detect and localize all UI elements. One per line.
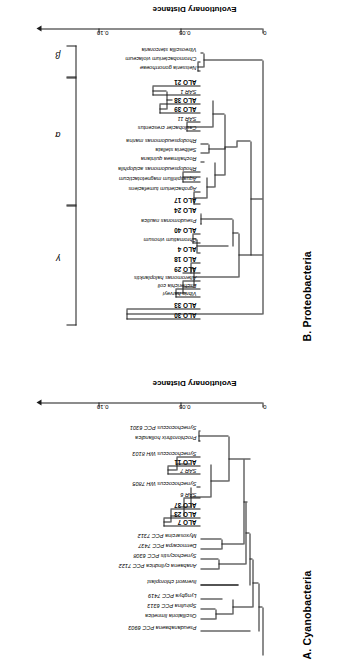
tree-branch-vertical	[178, 506, 183, 507]
tree-branch-vertical	[176, 463, 190, 464]
tip-branch	[200, 608, 215, 609]
tip-branch	[200, 568, 218, 569]
tree-branch-vertical	[200, 218, 232, 219]
tree-branch-vertical	[208, 148, 224, 149]
tip-label: Synechococcus PCC 6301	[129, 423, 196, 429]
tip-label: Rhodopseudomonas acidophila	[118, 164, 196, 170]
tree-branch-horizontal	[224, 114, 225, 175]
tree-branch-vertical	[182, 286, 193, 287]
rotated-figure: A. Cyanobacteria Pseudanabaena PCC 6903O…	[0, 0, 348, 665]
tree-branch-vertical	[200, 584, 238, 585]
tip-label: SAR 1	[180, 87, 196, 93]
tree-branch-horizontal	[206, 177, 207, 198]
group-bracket	[66, 205, 76, 325]
tree-branch-vertical	[192, 238, 196, 239]
tip-label: Synechocystis PCC 6308	[133, 551, 196, 557]
tree-branch-vertical	[214, 174, 224, 175]
tip-label: Seliberia stellata	[155, 145, 196, 151]
tip-label: Synechococcus WH 7805	[132, 479, 196, 485]
tip-label: Spirulina PCC 6313	[147, 601, 196, 607]
tip-label: ALO 38	[174, 95, 196, 101]
tree-branch-vertical	[198, 435, 228, 436]
tree-branch-vertical	[258, 606, 262, 607]
root-branch	[262, 607, 263, 655]
tree-branch-horizontal	[193, 268, 194, 287]
tip-label: Anabaena cylindrica PCC 7122	[118, 561, 196, 567]
tip-branch	[170, 508, 200, 509]
tip-branch	[175, 288, 200, 289]
tip-label: SAR 7	[180, 466, 196, 472]
tip-branch	[176, 456, 200, 457]
tip-label: liverwort chloroplast	[147, 577, 196, 583]
tree-branch-vertical	[206, 186, 214, 187]
tip-label: Chromobacterium violaceum	[125, 54, 196, 60]
tip-label: Synechococcus WH 8103	[132, 449, 196, 455]
tip-branch	[200, 548, 221, 549]
root-branch	[262, 60, 263, 314]
axis-tick-label: 0.10	[96, 403, 108, 409]
tree-branch-vertical	[197, 66, 203, 67]
tip-label: ALO 4	[177, 244, 196, 250]
tree-branch-vertical	[163, 521, 170, 522]
tree-branch-vertical	[203, 59, 262, 60]
tip-label: SAR 6	[180, 490, 196, 496]
group-bracket	[66, 77, 76, 205]
axis-title: Evolutionary Distance	[152, 378, 236, 387]
tree-branch-vertical	[159, 108, 166, 109]
tree-branch-vertical	[250, 198, 262, 199]
tip-label: Oscillatoria limnetica	[145, 611, 196, 617]
tip-branch	[200, 598, 222, 599]
tip-branch	[200, 152, 208, 153]
axis-line	[40, 28, 262, 29]
tree-branch-vertical	[228, 458, 250, 459]
axis-tick-label: 0.05	[178, 403, 190, 409]
tree-branch-vertical	[212, 113, 224, 114]
tip-branch	[200, 143, 208, 144]
tip-label: Chromatium vinosum	[143, 235, 196, 241]
tip-branch	[182, 171, 200, 172]
tree-branch-vertical	[167, 469, 176, 470]
tip-label: Pseudomonas nautica	[141, 216, 196, 222]
figure-page: A. Cyanobacteria Pseudanabaena PCC 6903O…	[0, 0, 348, 665]
tree-branch-horizontal	[236, 141, 237, 147]
tip-branch	[186, 130, 200, 131]
tip-label: ALO 21	[174, 77, 196, 83]
tree-branch-vertical	[215, 613, 232, 614]
tip-label: Myxosarcina PCC 7312	[137, 531, 196, 537]
tip-branch	[196, 486, 200, 487]
tree-branch-vertical	[252, 582, 258, 583]
tree-branch-vertical	[170, 515, 178, 516]
tip-label: ALO 24	[174, 205, 196, 211]
tip-branch	[182, 181, 200, 182]
tip-label: Neisseria gonorrhoeae	[139, 63, 196, 69]
tree-branch-vertical	[175, 292, 186, 293]
group-label-gamma: γ	[56, 253, 61, 263]
tip-branch	[152, 94, 200, 95]
tip-label: Alteromonas haloplanktis	[134, 273, 197, 279]
tip-label: ALO 40	[174, 225, 196, 231]
axis-line	[40, 402, 262, 403]
tip-branch	[167, 473, 200, 474]
tip-branch	[182, 280, 200, 281]
tree-branch-vertical	[232, 232, 238, 233]
tree-branch-vertical	[210, 480, 228, 481]
tip-label: ALO 18	[174, 254, 196, 260]
axis-arrow	[36, 26, 41, 32]
tip-label: Agrobacterium tumefaciens	[128, 184, 196, 190]
tip-label: Lyngbya PCC 7419	[148, 591, 196, 597]
panel-b-title: B. Proteobacteria	[300, 251, 312, 341]
tip-branch	[126, 308, 200, 309]
tree-branch-vertical	[152, 90, 166, 91]
tip-label: Rochalimaea quintana	[140, 154, 196, 160]
tip-branch	[200, 161, 204, 162]
axis-tick-label: 0.05	[178, 29, 190, 35]
tip-label: ALO 33	[174, 300, 196, 306]
tree-branch-vertical	[221, 543, 243, 544]
tree-branch-vertical	[182, 176, 200, 177]
tree-branch-vertical	[245, 532, 249, 533]
tip-label: Vitreoscilla stercoraria	[141, 45, 196, 51]
axis-tick-label: 0	[263, 403, 266, 409]
tip-branch	[175, 296, 200, 297]
tip-branch	[190, 262, 200, 263]
tip-branch	[200, 618, 215, 619]
